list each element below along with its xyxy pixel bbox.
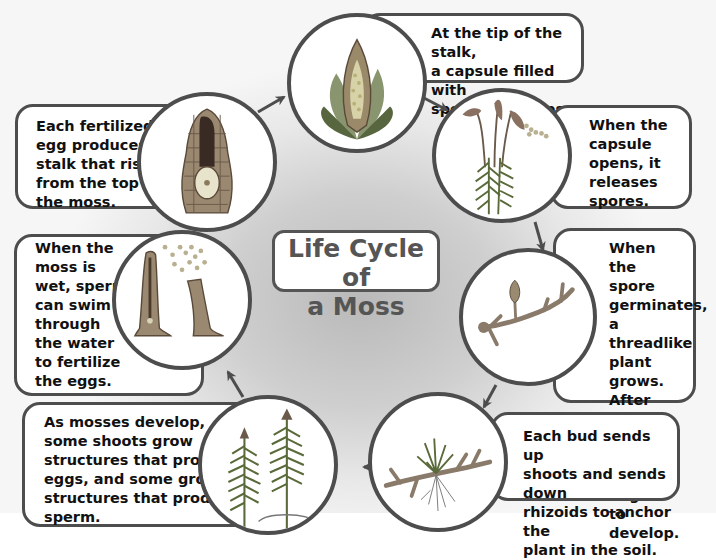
capsules-releasing-spores-icon	[436, 92, 568, 219]
stage-illustration-fertilization	[112, 230, 252, 370]
stage-illustration-bud-shoots	[368, 392, 508, 532]
capsule-with-spores-icon	[291, 17, 423, 149]
stage-text-box-bud-shoots: Each bud sends up shoots and sends down …	[490, 412, 680, 501]
stage-illustration-stalk-rises	[137, 92, 277, 232]
diagram-title: Life Cycle of a Moss	[272, 230, 440, 292]
diagram-title-line2: a Moss	[275, 292, 437, 321]
diagram-title-line1: Life Cycle of	[275, 234, 437, 292]
mature-moss-shoots-icon	[202, 399, 334, 531]
bud-with-rhizoids-icon	[372, 396, 504, 528]
stage-illustration-spore-germinates	[459, 248, 597, 386]
stage-text-bud-shoots: Each bud sends up shoots and sends down …	[523, 427, 673, 560]
fertilized-egg-in-archegonium-icon	[141, 96, 273, 228]
stage-illustration-mosses-develop	[198, 395, 338, 535]
threadlike-protonema-icon	[463, 252, 593, 382]
stage-illustration-spores-released	[432, 88, 572, 223]
stage-text-spores-released: When the capsule opens, it releases spor…	[589, 116, 681, 211]
sperm-swimming-to-egg-icon	[116, 234, 248, 366]
stage-illustration-capsule-forms	[287, 13, 427, 153]
